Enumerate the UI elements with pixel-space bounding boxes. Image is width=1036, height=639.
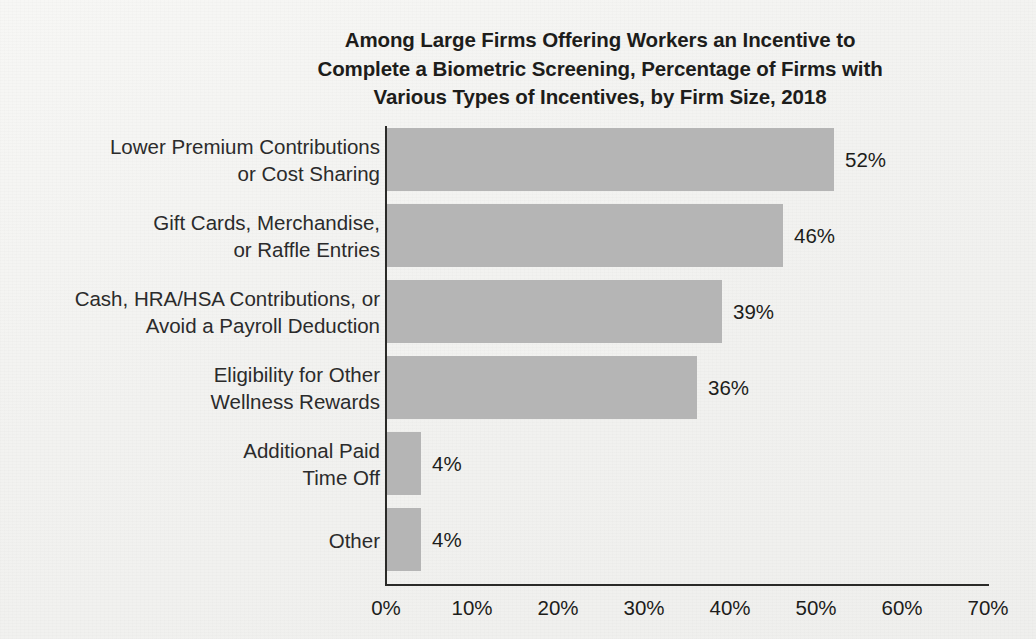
category-label-line: Other xyxy=(329,527,380,554)
bar-value-eligibility-other-wellness-rewards: 36% xyxy=(708,376,749,400)
bar-value-additional-paid-time-off: 4% xyxy=(432,452,462,476)
category-label-line: Cash, HRA/HSA Contributions, or xyxy=(75,285,380,312)
x-tick-label-50: 50% xyxy=(795,596,836,620)
bar-chart-plot-area: Lower Premium Contributions or Cost Shar… xyxy=(0,0,1036,639)
bar-value-lower-premium-contributions: 52% xyxy=(845,148,886,172)
x-axis-line xyxy=(385,584,989,586)
bar-gift-cards-merchandise xyxy=(387,204,783,267)
x-tick-label-60: 60% xyxy=(881,596,922,620)
bar-eligibility-other-wellness-rewards xyxy=(387,356,697,419)
category-label-eligibility-other-wellness-rewards: Eligibility for Other Wellness Rewards xyxy=(211,361,380,415)
bar-value-other: 4% xyxy=(432,528,462,552)
category-label-lower-premium-contributions: Lower Premium Contributions or Cost Shar… xyxy=(110,133,380,187)
x-tick-label-70: 70% xyxy=(967,596,1008,620)
x-tick-label-40: 40% xyxy=(709,596,750,620)
category-label-line: or Raffle Entries xyxy=(153,236,380,263)
x-tick-label-30: 30% xyxy=(623,596,664,620)
bar-value-cash-hra-hsa-contributions: 39% xyxy=(733,300,774,324)
category-label-line: or Cost Sharing xyxy=(110,160,380,187)
x-tick-label-10: 10% xyxy=(451,596,492,620)
category-label-additional-paid-time-off: Additional Paid Time Off xyxy=(243,437,380,491)
bar-other xyxy=(387,508,421,571)
category-label-line: Time Off xyxy=(243,464,380,491)
category-label-line: Eligibility for Other xyxy=(211,361,380,388)
category-label-line: Wellness Rewards xyxy=(211,388,380,415)
y-axis-line xyxy=(385,126,387,586)
category-label-gift-cards-merchandise: Gift Cards, Merchandise, or Raffle Entri… xyxy=(153,209,380,263)
bar-lower-premium-contributions xyxy=(387,128,834,191)
x-tick-label-20: 20% xyxy=(537,596,578,620)
bar-additional-paid-time-off xyxy=(387,432,421,495)
category-label-other: Other xyxy=(329,527,380,554)
bar-value-gift-cards-merchandise: 46% xyxy=(794,224,835,248)
bar-cash-hra-hsa-contributions xyxy=(387,280,722,343)
x-tick-label-0: 0% xyxy=(371,596,401,620)
category-label-line: Lower Premium Contributions xyxy=(110,133,380,160)
category-label-line: Gift Cards, Merchandise, xyxy=(153,209,380,236)
category-label-line: Additional Paid xyxy=(243,437,380,464)
category-label-line: Avoid a Payroll Deduction xyxy=(75,312,380,339)
category-label-cash-hra-hsa-contributions: Cash, HRA/HSA Contributions, or Avoid a … xyxy=(75,285,380,339)
